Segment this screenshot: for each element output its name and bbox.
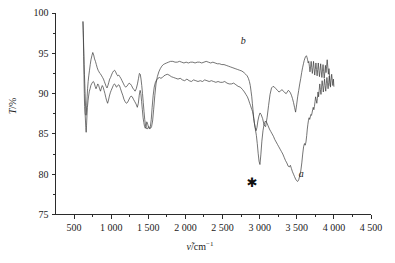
x-tick-label: 1 000 (100, 222, 123, 233)
curve-label-b: b (241, 35, 246, 46)
x-tick-label: 4 000 (323, 222, 346, 233)
y-tick-label: 85 (39, 128, 49, 139)
y-axis-title: T/% (7, 98, 18, 115)
curve-label-a: a (299, 168, 304, 179)
x-tick-label: 1 500 (137, 222, 160, 233)
x-tick-label: 2 500 (211, 222, 234, 233)
y-tick-label: 80 (39, 169, 49, 180)
x-tick-label: 500 (67, 222, 82, 233)
x-tick-label: 3 500 (286, 222, 309, 233)
y-tick-label: 100 (34, 7, 49, 18)
x-tick-label: 4 500 (360, 222, 383, 233)
y-tick-label: 90 (39, 88, 49, 99)
x-tick-label: 2 000 (174, 222, 197, 233)
y-tick-label: 95 (39, 48, 49, 59)
spectrum-plot-svg: 7580859095100 T/% 5001 0001 5002 0002 50… (0, 0, 395, 263)
y-tick-label: 75 (39, 209, 49, 220)
ftir-spectrum-figure: 7580859095100 T/% 5001 0001 5002 0002 50… (0, 0, 395, 263)
x-tick-label: 3 000 (248, 222, 271, 233)
x-tick-labels: 5001 0001 5002 0002 5003 0003 5004 0004 … (67, 222, 383, 233)
star-marker: ✱ (247, 175, 258, 190)
